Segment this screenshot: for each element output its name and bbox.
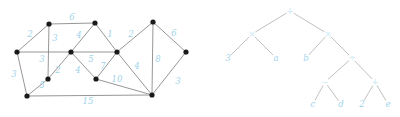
tree-edge bbox=[364, 86, 372, 100]
edge-weight-label: 3 bbox=[52, 33, 57, 43]
edge-weight-label: 5 bbox=[39, 80, 44, 90]
graph-vertex bbox=[149, 92, 154, 97]
edge-weight-label: 3 bbox=[39, 54, 44, 64]
edge-weight-label: 4 bbox=[74, 65, 80, 75]
tree-edge bbox=[328, 61, 348, 79]
tree-edge bbox=[231, 37, 249, 55]
tree-edge bbox=[377, 86, 385, 100]
edge-weight-label: 6 bbox=[69, 12, 75, 22]
tree-leaf-label: b bbox=[303, 53, 308, 63]
graph-vertex bbox=[93, 76, 98, 81]
edge-weight-label: 10 bbox=[112, 74, 123, 84]
edge-weight-label: 15 bbox=[83, 96, 94, 106]
tree-leaf-label: 2 bbox=[358, 99, 364, 109]
graph-vertex bbox=[68, 49, 73, 54]
edge-weight-label: 3 bbox=[175, 76, 180, 86]
edge-weight-label: 2 bbox=[54, 65, 60, 75]
edge-weight-label: 2 bbox=[127, 29, 133, 39]
tree-edge bbox=[294, 13, 324, 31]
tree-operator-label: × bbox=[248, 29, 255, 39]
graph-edge bbox=[71, 23, 95, 52]
edge-weight-label: 6 bbox=[171, 28, 177, 38]
tree-edge bbox=[309, 37, 325, 54]
edge-weight-label: 4 bbox=[75, 30, 81, 40]
tree-leaf-label: e bbox=[385, 99, 390, 109]
tree-operator-label: + bbox=[371, 77, 378, 87]
graph-edge bbox=[27, 79, 48, 96]
graph-edge bbox=[48, 24, 49, 79]
edge-weight-label: 7 bbox=[100, 61, 106, 71]
edge-weight-label: 4 bbox=[133, 61, 139, 71]
tree-operator-label: × bbox=[324, 29, 331, 39]
edge-weight-label: 8 bbox=[155, 54, 161, 64]
tree-edge bbox=[255, 37, 273, 55]
graph-edge bbox=[17, 52, 27, 96]
graph-edge bbox=[49, 23, 95, 24]
tree-leaf-label: a bbox=[273, 53, 278, 63]
graph-vertex bbox=[46, 21, 51, 26]
edge-weight-label: 3 bbox=[11, 69, 16, 79]
graph-edge bbox=[17, 24, 49, 52]
tree-operator-label: + bbox=[286, 6, 293, 16]
tree-edge bbox=[331, 37, 349, 55]
graph-vertex bbox=[24, 93, 29, 98]
graph-edge bbox=[152, 22, 153, 95]
edge-weight-label: 1 bbox=[107, 29, 112, 39]
graph-edge bbox=[96, 79, 152, 95]
tree-leaf-label: d bbox=[338, 99, 344, 109]
tree-edge bbox=[315, 86, 323, 100]
figure-root: 263335244517101526843 +××3ab÷−+cd2e bbox=[0, 0, 400, 117]
tree-leaf-label: c bbox=[311, 99, 316, 109]
tree-operator-label: − bbox=[321, 77, 328, 87]
graph-edge bbox=[95, 23, 117, 52]
graph-edge bbox=[153, 22, 186, 52]
graph-vertex bbox=[183, 49, 188, 54]
tree-edge bbox=[355, 61, 372, 79]
edge-weight-label: 5 bbox=[88, 54, 93, 64]
graph-vertex bbox=[150, 19, 155, 24]
tree-operator-label: ÷ bbox=[348, 53, 355, 63]
edge-weight-label: 2 bbox=[26, 29, 32, 39]
tree-leaf-label: 3 bbox=[225, 53, 230, 63]
graph-vertex bbox=[14, 49, 19, 54]
graph-vertex bbox=[92, 20, 97, 25]
graph-vertex bbox=[45, 76, 50, 81]
tree-edge bbox=[256, 13, 286, 31]
graph-edge bbox=[117, 22, 153, 52]
figure-canvas: 263335244517101526843 +××3ab÷−+cd2e bbox=[0, 0, 400, 117]
graph-vertex bbox=[114, 49, 119, 54]
tree-edge bbox=[328, 86, 339, 101]
tree-node-layer: +××3ab÷−+cd2e bbox=[225, 6, 390, 109]
